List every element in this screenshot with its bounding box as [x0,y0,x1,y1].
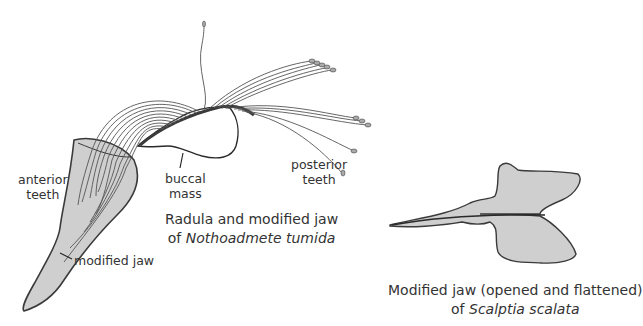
anterior-teeth-label: anterior teeth [18,172,68,202]
caption-right: Modified jaw (opened and flattened) of S… [388,281,643,319]
scalptia-jaw-shape [390,163,580,263]
upper-tooth [200,24,205,110]
posterior-teeth-label: posterior teeth [291,157,347,187]
species-name: Nothoadmete tumida [186,230,336,246]
species-name: Scalptia scalata [469,301,579,317]
caption-left: Radula and modified jaw of Nothoadmete t… [165,210,338,248]
buccal-mass-label: buccal mass [165,171,206,201]
modified-jaw-label: modified jaw [74,253,154,268]
buccal-leader-line [180,153,183,168]
